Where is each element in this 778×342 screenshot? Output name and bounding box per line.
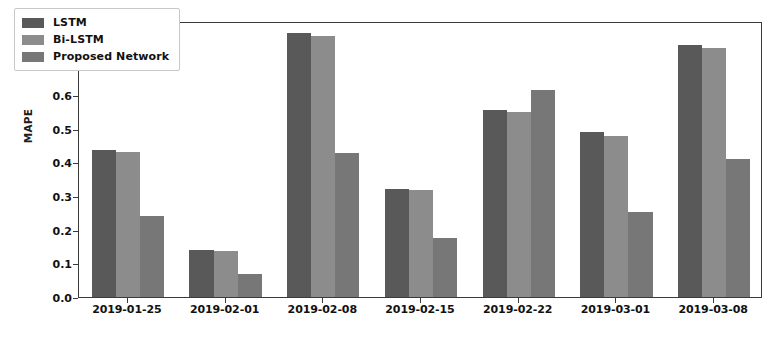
y-tick-label: 0.2 bbox=[30, 224, 72, 237]
bar bbox=[140, 216, 164, 297]
legend-label: Bi-LSTM bbox=[53, 33, 104, 46]
x-tick-label: 2019-02-08 bbox=[288, 303, 357, 316]
legend-swatch-icon bbox=[22, 18, 44, 28]
y-tick-mark bbox=[73, 298, 78, 299]
bar bbox=[116, 152, 140, 297]
plot-area bbox=[78, 22, 762, 298]
bar bbox=[311, 36, 335, 297]
y-tick-label: 0.1 bbox=[30, 258, 72, 271]
legend: LSTMBi-LSTMProposed Network bbox=[14, 8, 180, 71]
y-tick-label: 0.0 bbox=[30, 292, 72, 305]
y-tick-mark bbox=[73, 264, 78, 265]
bar bbox=[238, 274, 262, 297]
legend-swatch-icon bbox=[22, 52, 44, 62]
bar bbox=[433, 238, 457, 297]
bar bbox=[409, 190, 433, 297]
bar bbox=[483, 110, 507, 297]
bar bbox=[726, 159, 750, 297]
legend-label: Proposed Network bbox=[53, 50, 169, 63]
y-tick-mark bbox=[73, 197, 78, 198]
y-tick-mark bbox=[73, 96, 78, 97]
y-tick-label: 0.5 bbox=[30, 123, 72, 136]
y-tick-label: 0.6 bbox=[30, 90, 72, 103]
x-tick-label: 2019-03-08 bbox=[678, 303, 747, 316]
legend-item: Bi-LSTM bbox=[22, 31, 169, 48]
legend-label: LSTM bbox=[53, 16, 87, 29]
bar bbox=[580, 132, 604, 297]
x-tick-label: 2019-01-25 bbox=[92, 303, 161, 316]
bars-container bbox=[79, 23, 761, 297]
x-tick-label: 2019-02-01 bbox=[190, 303, 259, 316]
y-tick-mark bbox=[73, 130, 78, 131]
x-tick-label: 2019-03-01 bbox=[581, 303, 650, 316]
legend-item: Proposed Network bbox=[22, 48, 169, 65]
x-tick-label: 2019-02-22 bbox=[483, 303, 552, 316]
bar bbox=[702, 48, 726, 297]
legend-swatch-icon bbox=[22, 35, 44, 45]
y-tick-mark bbox=[73, 231, 78, 232]
y-tick-label: 0.4 bbox=[30, 157, 72, 170]
y-tick-mark bbox=[73, 163, 78, 164]
y-tick-label: 0.3 bbox=[30, 191, 72, 204]
bar bbox=[92, 150, 116, 297]
bar bbox=[507, 112, 531, 297]
bar bbox=[531, 90, 555, 297]
bar bbox=[385, 189, 409, 297]
bar bbox=[678, 45, 702, 297]
bar bbox=[287, 33, 311, 297]
bar bbox=[604, 136, 628, 297]
bar bbox=[189, 250, 213, 297]
bar bbox=[214, 251, 238, 297]
bar bbox=[628, 212, 652, 297]
x-tick-label: 2019-02-15 bbox=[385, 303, 454, 316]
legend-item: LSTM bbox=[22, 14, 169, 31]
figure: . MAPE 0.00.10.20.30.40.50.60.70.8 2019-… bbox=[0, 0, 778, 342]
bar bbox=[335, 153, 359, 297]
